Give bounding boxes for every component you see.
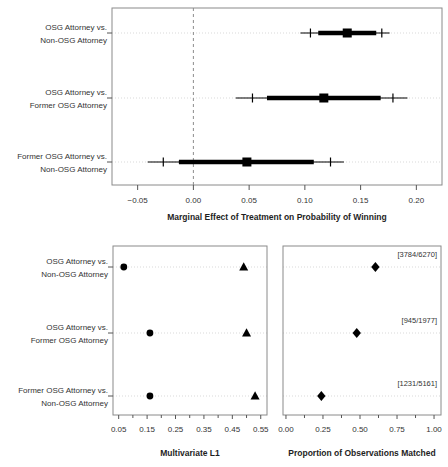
data-point-diamond (371, 262, 379, 272)
estimate-square (319, 94, 328, 103)
x-tick-label: 0.50 (352, 425, 368, 434)
x-tick-label: 0.20 (409, 196, 425, 205)
panel-l1: 0.050.150.250.350.450.55OSG Attorney vs.… (18, 246, 269, 434)
category-label-line2: Non-OSG Attorney (40, 36, 107, 45)
data-point-triangle (242, 328, 251, 336)
x-tick-label: 0.00 (278, 425, 294, 434)
forest-row (300, 29, 389, 38)
data-point-triangle (239, 262, 248, 270)
category-label-line2: Former OSG Attorney (31, 336, 108, 345)
x-tick-label: −0.05 (128, 196, 149, 205)
x-tick-label: 0.45 (225, 425, 241, 434)
data-point-diamond (317, 391, 325, 401)
x-tick-label: 0.55 (253, 425, 269, 434)
x-tick-label: 0.10 (297, 196, 313, 205)
figure-svg: −0.050.000.050.100.150.20OSG Attorney vs… (0, 0, 448, 467)
estimate-square (343, 29, 352, 38)
plot-border (283, 246, 441, 415)
matched-count-annotation: [945/1977] (402, 316, 437, 325)
data-point-diamond (353, 328, 361, 338)
data-point-circle (147, 330, 154, 337)
forest-row (236, 94, 408, 103)
x-axis-title-proportion-matched: Proportion of Observations Matched (283, 448, 441, 458)
x-tick-label: 0.35 (196, 425, 212, 434)
x-axis-title-marginal-effect: Marginal Effect of Treatment on Probabil… (112, 212, 442, 222)
x-tick-label: 0.00 (186, 196, 202, 205)
data-point-circle (120, 264, 127, 271)
category-label-line1: OSG Attorney vs. (46, 323, 108, 332)
plot-border (113, 246, 267, 415)
category-label-line2: Former OSG Attorney (30, 101, 107, 110)
category-label-line1: OSG Attorney vs. (45, 23, 107, 32)
matched-count-annotation: [3784/6270] (397, 250, 437, 259)
x-axis-title-multivariate-l1: Multivariate L1 (113, 448, 267, 458)
x-tick-label: 0.05 (241, 196, 257, 205)
estimate-square (242, 158, 251, 167)
category-label-line1: Former OSG Attorney vs. (18, 386, 108, 395)
panel-forest: −0.050.000.050.100.150.20OSG Attorney vs… (17, 8, 442, 205)
data-point-circle (147, 393, 154, 400)
category-label-line2: Non-OSG Attorney (40, 165, 107, 174)
matching-results-figure: −0.050.000.050.100.150.20OSG Attorney vs… (0, 0, 448, 467)
matched-count-annotation: [1231/5161] (397, 379, 437, 388)
category-label-line1: OSG Attorney vs. (46, 257, 108, 266)
x-tick-label: 0.25 (168, 425, 184, 434)
category-label-line2: Non-OSG Attorney (41, 270, 108, 279)
forest-row (148, 158, 344, 167)
category-label-line2: Non-OSG Attorney (41, 399, 108, 408)
category-label-line1: OSG Attorney vs. (45, 88, 107, 97)
x-tick-label: 1.00 (426, 425, 442, 434)
x-tick-label: 0.75 (389, 425, 405, 434)
x-tick-label: 0.15 (139, 425, 155, 434)
category-label-line1: Former OSG Attorney vs. (17, 152, 107, 161)
x-tick-label: 0.05 (111, 425, 127, 434)
panel-matched: 0.000.250.500.751.00[3784/6270][945/1977… (278, 246, 442, 434)
x-tick-label: 0.25 (315, 425, 331, 434)
data-point-triangle (251, 391, 260, 399)
x-tick-label: 0.15 (353, 196, 369, 205)
